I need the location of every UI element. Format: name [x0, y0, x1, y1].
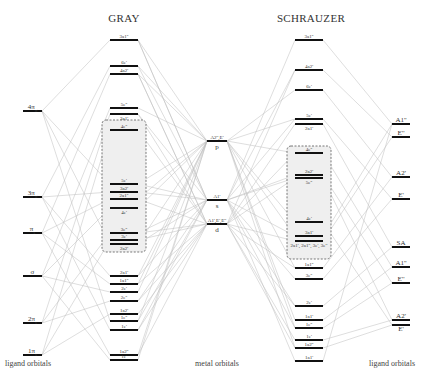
correlation-line — [323, 222, 392, 325]
correlation-line — [42, 197, 110, 330]
correlation-line — [138, 224, 207, 284]
gray-mo-label: 2e'' — [121, 295, 128, 300]
mo-diagram: 4πσ3πσπsσ2πs1πs3a1''6e'4a2'5e''3a1'4e''5… — [0, 0, 438, 385]
correlation-line — [42, 240, 110, 355]
schrauzer-mo-label: 2a1' — [305, 126, 313, 131]
correlation-line — [323, 153, 392, 267]
schrauzer-title: SCHRAUZER — [277, 12, 345, 24]
correlation-line — [227, 119, 295, 200]
correlation-line — [138, 224, 207, 330]
correlation-line — [323, 40, 392, 124]
correlation-line — [138, 141, 207, 199]
correlation-line — [42, 233, 110, 323]
correlation-line — [42, 233, 110, 355]
schrauzer-mo-label: 2e' — [306, 300, 312, 305]
gray-mo-label: 1e'' — [121, 315, 128, 320]
metal-label: A1' — [213, 194, 220, 199]
gray-mo-label: 5e' — [121, 178, 127, 183]
correlation-line — [227, 200, 295, 279]
correlation-line — [323, 267, 392, 320]
gray-mo-label: 1e' — [121, 354, 127, 359]
correlation-line — [138, 200, 207, 321]
ligand-right-label: E'' — [398, 275, 405, 283]
correlation-line — [227, 70, 295, 200]
correlation-line — [227, 40, 295, 200]
correlation-line — [323, 90, 392, 177]
correlation-line — [227, 200, 295, 306]
correlation-line — [227, 141, 295, 348]
correlation-line — [227, 90, 295, 141]
correlation-line — [227, 141, 295, 153]
ligand-right-label: A2' — [396, 169, 406, 177]
schrauzer-mo-label: 1e'' — [306, 322, 313, 327]
correlation-line — [227, 141, 295, 268]
correlation-line — [227, 224, 295, 241]
gray-mo-label: 4a2' — [120, 68, 128, 73]
correlation-line — [138, 141, 207, 360]
correlation-line — [323, 325, 392, 348]
correlation-line — [323, 124, 392, 361]
gray-mo-label: 3a2' — [120, 186, 128, 191]
correlation-line — [227, 224, 295, 348]
correlation-line — [138, 141, 207, 276]
gray-mo-label: 4e' — [121, 210, 127, 215]
schrauzer-mo-label: 1a1' — [305, 355, 313, 360]
gray-mo-label: 1a2' — [120, 308, 128, 313]
gray-mo-label: 2e' — [121, 286, 127, 291]
gray-mo-label: 2a1' — [120, 270, 128, 275]
correlation-line — [138, 74, 207, 224]
schrauzer-mo-label: 3a1'' — [304, 34, 313, 39]
correlation-line — [227, 141, 295, 328]
schrauzer-mo-label: 3a1' — [305, 230, 313, 235]
ligand-orbitals-right-label: ligand orbitals — [369, 359, 415, 368]
gray-mo-label: 2a2' — [120, 246, 128, 251]
ligand-right-label: E' — [398, 325, 404, 333]
ligand-left-label: σ — [31, 268, 35, 276]
correlation-line — [138, 130, 207, 224]
correlation-line — [227, 200, 295, 328]
correlation-line — [138, 40, 207, 141]
correlation-line — [227, 124, 295, 224]
schrauzer-mo-label: 4e' — [306, 216, 312, 221]
correlation-line — [42, 130, 110, 355]
correlation-line — [42, 192, 110, 197]
gray-mo-label: 6e' — [121, 60, 127, 65]
correlation-line — [138, 114, 207, 224]
correlation-line — [227, 224, 295, 340]
ligand-right-label: A2' — [396, 312, 406, 320]
correlation-line — [323, 320, 392, 340]
correlation-line — [323, 124, 392, 236]
correlation-line — [138, 40, 207, 200]
schrauzer-mo-label: 1a1' — [305, 314, 313, 319]
gray-mo-label: 5e'' — [121, 102, 128, 107]
correlation-line — [42, 314, 110, 355]
schrauzer-mo-label: 5e'' — [306, 180, 313, 185]
correlation-line — [323, 247, 392, 306]
ligand-right-label: A1'' — [395, 116, 406, 124]
correlation-line — [138, 108, 207, 141]
correlation-line — [42, 197, 110, 276]
gray-mo-label: 3e' — [121, 234, 127, 239]
gray-title: GRAY — [108, 12, 139, 24]
metal-symmetry-label: d — [215, 226, 219, 234]
correlation-line — [227, 119, 295, 141]
correlation-line — [42, 233, 110, 284]
correlation-line — [138, 192, 207, 200]
correlation-line — [323, 70, 392, 137]
correlation-line — [138, 66, 207, 141]
correlation-line — [42, 276, 110, 360]
schrauzer-mo-label: 6e' — [306, 84, 312, 89]
metal-symmetry-label: s — [216, 202, 219, 210]
correlation-line — [138, 114, 207, 200]
correlation-line — [227, 141, 295, 236]
schrauzer-mo-label: 3e'' — [306, 273, 313, 278]
ligand-right-label: E'' — [398, 129, 405, 137]
gray-mo-label: 4e'' — [121, 124, 128, 129]
correlation-line — [138, 184, 207, 200]
correlation-line — [138, 66, 207, 200]
correlation-line — [323, 137, 392, 241]
correlation-line — [42, 111, 110, 184]
correlation-line — [227, 200, 295, 361]
mo-diagram-svg: 4πσ3πσπsσ2πs1πs3a1''6e'4a2'5e''3a1'4e''5… — [0, 0, 438, 385]
correlation-line — [42, 40, 110, 111]
